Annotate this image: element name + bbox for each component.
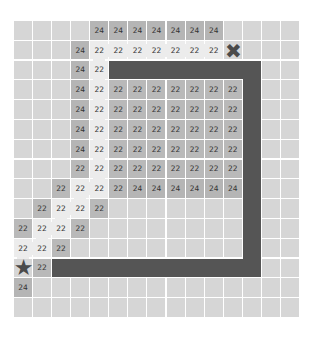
value-cell[interactable]: 22 bbox=[128, 100, 146, 119]
empty-cell[interactable] bbox=[71, 278, 89, 297]
empty-cell[interactable] bbox=[147, 278, 165, 297]
empty-cell[interactable] bbox=[167, 199, 185, 218]
path-cell[interactable]: 22 bbox=[90, 61, 108, 80]
value-cell[interactable]: 22 bbox=[205, 80, 223, 99]
empty-cell[interactable] bbox=[52, 21, 70, 40]
value-cell[interactable]: 22 bbox=[128, 120, 146, 139]
value-cell[interactable]: 24 bbox=[71, 140, 89, 159]
empty-cell[interactable] bbox=[33, 120, 51, 139]
value-cell[interactable]: 24 bbox=[71, 80, 89, 99]
empty-cell[interactable] bbox=[186, 199, 204, 218]
empty-cell[interactable] bbox=[167, 219, 185, 238]
empty-cell[interactable] bbox=[281, 80, 299, 99]
value-cell[interactable]: 22 bbox=[14, 219, 32, 238]
value-cell[interactable]: 24 bbox=[90, 21, 108, 40]
empty-cell[interactable] bbox=[281, 41, 299, 60]
empty-cell[interactable] bbox=[52, 160, 70, 179]
empty-cell[interactable] bbox=[147, 239, 165, 258]
empty-cell[interactable] bbox=[243, 21, 261, 40]
path-cell[interactable]: 22 bbox=[128, 41, 146, 60]
empty-cell[interactable] bbox=[71, 239, 89, 258]
empty-cell[interactable] bbox=[281, 100, 299, 119]
empty-cell[interactable] bbox=[205, 278, 223, 297]
value-cell[interactable]: 24 bbox=[71, 100, 89, 119]
value-cell[interactable]: 24 bbox=[167, 21, 185, 40]
empty-cell[interactable] bbox=[186, 239, 204, 258]
value-cell[interactable]: 24 bbox=[147, 179, 165, 198]
value-cell[interactable]: 22 bbox=[224, 100, 242, 119]
path-cell[interactable]: 22 bbox=[90, 41, 108, 60]
path-cell[interactable]: 22 bbox=[147, 41, 165, 60]
empty-cell[interactable] bbox=[128, 278, 146, 297]
value-cell[interactable]: 22 bbox=[52, 239, 70, 258]
value-cell[interactable]: 24 bbox=[71, 61, 89, 80]
empty-cell[interactable] bbox=[262, 160, 280, 179]
empty-cell[interactable] bbox=[262, 278, 280, 297]
value-cell[interactable]: 22 bbox=[33, 199, 51, 218]
value-cell[interactable]: 22 bbox=[224, 140, 242, 159]
value-cell[interactable]: 22 bbox=[147, 140, 165, 159]
empty-cell[interactable] bbox=[14, 80, 32, 99]
value-cell[interactable]: 22 bbox=[224, 120, 242, 139]
empty-cell[interactable] bbox=[128, 239, 146, 258]
empty-cell[interactable] bbox=[281, 61, 299, 80]
empty-cell[interactable] bbox=[147, 298, 165, 317]
value-cell[interactable]: 24 bbox=[186, 179, 204, 198]
path-cell[interactable]: 22 bbox=[52, 219, 70, 238]
empty-cell[interactable] bbox=[243, 298, 261, 317]
empty-cell[interactable] bbox=[128, 219, 146, 238]
value-cell[interactable]: 22 bbox=[167, 120, 185, 139]
empty-cell[interactable] bbox=[109, 239, 127, 258]
value-cell[interactable]: 24 bbox=[167, 179, 185, 198]
path-cell[interactable]: 22 bbox=[52, 199, 70, 218]
empty-cell[interactable] bbox=[262, 41, 280, 60]
value-cell[interactable]: 22 bbox=[109, 80, 127, 99]
empty-cell[interactable] bbox=[14, 160, 32, 179]
path-cell[interactable]: 22 bbox=[33, 239, 51, 258]
empty-cell[interactable] bbox=[90, 239, 108, 258]
value-cell[interactable]: 22 bbox=[224, 80, 242, 99]
value-cell[interactable]: 22 bbox=[167, 140, 185, 159]
empty-cell[interactable] bbox=[224, 278, 242, 297]
empty-cell[interactable] bbox=[224, 239, 242, 258]
value-cell[interactable]: 22 bbox=[109, 120, 127, 139]
empty-cell[interactable] bbox=[52, 298, 70, 317]
empty-cell[interactable] bbox=[262, 80, 280, 99]
empty-cell[interactable] bbox=[205, 239, 223, 258]
value-cell[interactable]: 22 bbox=[205, 100, 223, 119]
empty-cell[interactable] bbox=[224, 219, 242, 238]
empty-cell[interactable] bbox=[243, 278, 261, 297]
value-cell[interactable]: 22 bbox=[167, 80, 185, 99]
empty-cell[interactable] bbox=[109, 278, 127, 297]
empty-cell[interactable] bbox=[33, 41, 51, 60]
value-cell[interactable]: 24 bbox=[109, 21, 127, 40]
empty-cell[interactable] bbox=[33, 100, 51, 119]
empty-cell[interactable] bbox=[109, 298, 127, 317]
value-cell[interactable]: 24 bbox=[205, 21, 223, 40]
path-cell[interactable]: 22 bbox=[71, 199, 89, 218]
path-cell[interactable]: 22 bbox=[186, 41, 204, 60]
empty-cell[interactable] bbox=[262, 259, 280, 278]
value-cell[interactable]: 22 bbox=[147, 100, 165, 119]
empty-cell[interactable] bbox=[262, 179, 280, 198]
value-cell[interactable]: 22 bbox=[128, 140, 146, 159]
value-cell[interactable]: 22 bbox=[186, 140, 204, 159]
value-cell[interactable]: 24 bbox=[147, 21, 165, 40]
value-cell[interactable]: 24 bbox=[14, 278, 32, 297]
value-cell[interactable]: 22 bbox=[90, 199, 108, 218]
value-cell[interactable]: 22 bbox=[33, 259, 51, 278]
empty-cell[interactable] bbox=[128, 298, 146, 317]
path-cell[interactable]: 22 bbox=[205, 41, 223, 60]
empty-cell[interactable] bbox=[167, 298, 185, 317]
empty-cell[interactable] bbox=[14, 298, 32, 317]
empty-cell[interactable] bbox=[262, 298, 280, 317]
empty-cell[interactable] bbox=[52, 61, 70, 80]
empty-cell[interactable] bbox=[281, 21, 299, 40]
empty-cell[interactable] bbox=[262, 219, 280, 238]
game-board[interactable]: 2424242424242424222222222222222422242222… bbox=[14, 21, 301, 318]
empty-cell[interactable] bbox=[281, 140, 299, 159]
value-cell[interactable]: 22 bbox=[109, 160, 127, 179]
value-cell[interactable]: 24 bbox=[71, 120, 89, 139]
path-cell[interactable]: 22 bbox=[109, 41, 127, 60]
empty-cell[interactable] bbox=[205, 298, 223, 317]
